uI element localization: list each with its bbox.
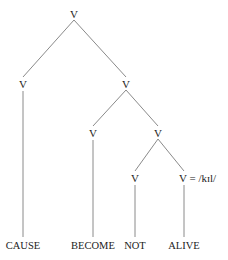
- node-not-v: V: [131, 173, 139, 184]
- edge-v_right-v_become: [93, 90, 126, 126]
- node-become-v: V: [89, 128, 97, 139]
- edge-v_lower-v_not: [135, 139, 158, 171]
- edge-root-v_right: [74, 20, 126, 77]
- edge-v_right-v_lower: [126, 90, 158, 126]
- leaf-not: NOT: [124, 241, 146, 252]
- node-lower-v: V: [154, 128, 162, 139]
- tree-diagram: [0, 0, 228, 260]
- leaf-alive: ALIVE: [168, 241, 200, 252]
- node-alive-v-kill: V = /kɪl/: [179, 173, 216, 184]
- node-right-v: V: [122, 79, 130, 90]
- edge-root-v_cause: [23, 20, 74, 77]
- leaf-become: BECOME: [71, 241, 115, 252]
- leaf-cause: CAUSE: [6, 241, 40, 252]
- node-cause-v: V: [19, 79, 27, 90]
- node-root-v: V: [70, 9, 78, 20]
- edge-v_lower-v_alive: [158, 139, 184, 171]
